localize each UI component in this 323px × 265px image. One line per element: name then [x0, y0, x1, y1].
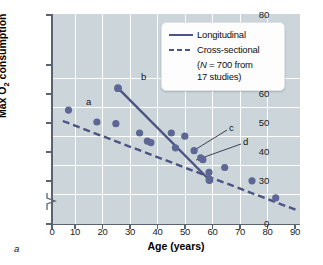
x-tick-label-40: 40: [152, 226, 162, 237]
figure-max-o2-consumption-vs-age: 80 70 60 50 40 30 0 0 10 20 30 40 50 60 …: [0, 0, 323, 265]
legend-dashed-line-icon: [169, 45, 193, 55]
legend-entry-longitudinal: Longitudinal: [169, 29, 277, 40]
y-tick-label-30: 30: [247, 175, 269, 186]
annotation-d: d: [243, 136, 248, 147]
gridline-y-60: [52, 107, 300, 108]
gridline-y-40: [52, 165, 300, 166]
legend-note-line2: 17 studies): [197, 71, 241, 82]
annotation-b: b: [141, 71, 146, 82]
legend-solid-line-icon: [169, 30, 193, 40]
legend: Longitudinal Cross-sectional (N = 700 fr…: [161, 22, 285, 91]
y-tick-label-80: 80: [247, 9, 269, 20]
y-tick-50: [46, 122, 51, 124]
gridline-y-50: [52, 136, 300, 137]
y-tick-70: [46, 64, 51, 66]
x-tick-label-30: 30: [125, 226, 135, 237]
x-axis-title: Age (years): [147, 240, 204, 252]
y-tick-40: [46, 151, 51, 153]
y-tick-60: [46, 93, 51, 95]
x-tick-label-20: 20: [97, 226, 107, 237]
x-tick-label-50: 50: [180, 226, 190, 237]
gridline-y-30: [52, 194, 300, 195]
x-tick-label-70: 70: [235, 226, 245, 237]
y-tick-30: [46, 180, 51, 182]
x-tick-label-60: 60: [207, 226, 217, 237]
gridline-x-20: [102, 14, 103, 224]
legend-label-longitudinal: Longitudinal: [197, 29, 246, 40]
gridline-x-40: [157, 14, 158, 224]
y-tick-label-50: 50: [247, 117, 269, 128]
x-tick-label-90: 90: [290, 226, 300, 237]
x-tick-label-0: 0: [49, 226, 54, 237]
x-tick-label-10: 10: [70, 226, 80, 237]
figure-panel-letter: a: [14, 243, 19, 254]
y-axis-break-icon: [44, 193, 60, 211]
y-axis-title: Max O2 consumption: [0, 13, 11, 118]
legend-note-line1: (N = 700 from: [197, 59, 253, 70]
annotation-a: a: [86, 96, 91, 107]
legend-label-cross-sectional: Cross-sectional: [197, 44, 259, 55]
y-tick-label-40: 40: [247, 146, 269, 157]
x-tick-label-80: 80: [262, 226, 272, 237]
legend-sample-size-note: (N = 700 from17 studies): [197, 59, 277, 83]
y-tick-80: [46, 14, 51, 16]
gridline-x-10: [75, 14, 76, 224]
legend-entry-cross-sectional: Cross-sectional: [169, 44, 277, 55]
annotation-c: c: [229, 122, 234, 133]
gridline-x-30: [130, 14, 131, 224]
